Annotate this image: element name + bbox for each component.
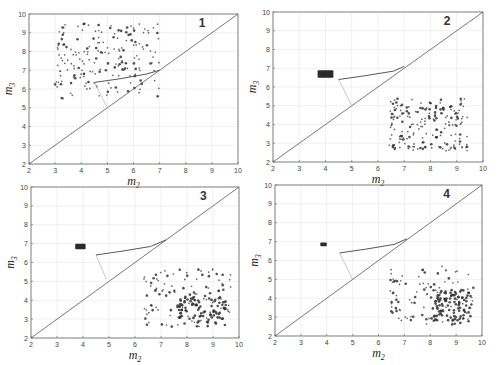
figure-svg: 23456789102345678910m2m31234567891023456… xyxy=(0,0,499,365)
panel-number: 1 xyxy=(199,16,206,30)
x-tick-label: 9 xyxy=(211,341,215,348)
x-tick-label: 3 xyxy=(53,167,57,174)
y-tick-label: 4 xyxy=(22,123,26,130)
x-tick-label: 3 xyxy=(55,341,59,348)
y-tick-label: 8 xyxy=(24,221,28,228)
point-cluster xyxy=(320,243,326,247)
x-axis-label: m2 xyxy=(129,348,142,364)
y-tick-label: 2 xyxy=(22,161,26,168)
x-tick-label: 8 xyxy=(184,167,188,174)
y-tick-label: 9 xyxy=(266,27,270,34)
panel-number: 4 xyxy=(443,187,450,201)
x-tick-label: 2 xyxy=(29,341,33,348)
x-tick-label: 8 xyxy=(428,339,432,346)
y-tick-label: 6 xyxy=(268,257,272,264)
x-axis-label: m2 xyxy=(127,174,140,190)
y-tick-label: 6 xyxy=(266,84,270,91)
x-tick-label: 5 xyxy=(105,167,109,174)
x-tick-label: 4 xyxy=(79,167,83,174)
panel-number: 2 xyxy=(444,14,451,28)
y-tick-label: 4 xyxy=(266,121,270,128)
x-tick-label: 2 xyxy=(27,167,31,174)
x-tick-label: 10 xyxy=(479,165,487,172)
point-cluster xyxy=(318,70,334,78)
x-axis-label: m2 xyxy=(372,172,385,188)
y-tick-label: 2 xyxy=(266,159,270,166)
x-axis-label: m2 xyxy=(372,346,385,362)
y-tick-label: 10 xyxy=(262,9,270,16)
y-axis-label: m3 xyxy=(1,83,17,96)
y-tick-label: 3 xyxy=(266,140,270,147)
y-tick-label: 8 xyxy=(268,219,272,226)
point-cluster xyxy=(75,244,85,250)
y-tick-label: 2 xyxy=(268,333,272,340)
x-tick-label: 8 xyxy=(185,341,189,348)
y-axis-label: m3 xyxy=(245,81,261,94)
x-tick-label: 6 xyxy=(132,167,136,174)
y-tick-label: 5 xyxy=(24,278,28,285)
x-tick-label: 7 xyxy=(402,339,406,346)
x-tick-label: 6 xyxy=(376,165,380,172)
y-tick-label: 5 xyxy=(22,104,26,111)
x-tick-label: 10 xyxy=(478,339,486,346)
dark-trajectory xyxy=(340,239,407,253)
x-tick-label: 4 xyxy=(324,165,328,172)
y-tick-label: 6 xyxy=(22,86,26,93)
x-tick-label: 9 xyxy=(454,339,458,346)
x-tick-label: 7 xyxy=(159,341,163,348)
x-tick-label: 6 xyxy=(133,341,137,348)
y-tick-label: 3 xyxy=(22,142,26,149)
x-tick-label: 2 xyxy=(271,165,275,172)
y-tick-label: 4 xyxy=(24,297,28,304)
x-tick-label: 3 xyxy=(299,339,303,346)
y-tick-label: 10 xyxy=(18,11,26,18)
scatter-points xyxy=(389,266,474,326)
y-tick-label: 9 xyxy=(268,200,272,207)
x-tick-label: 4 xyxy=(81,341,85,348)
y-tick-label: 6 xyxy=(24,259,28,266)
x-tick-label: 2 xyxy=(273,339,277,346)
y-tick-label: 9 xyxy=(24,202,28,209)
x-tick-label: 3 xyxy=(297,165,301,172)
light-trajectory xyxy=(339,80,352,106)
x-tick-label: 10 xyxy=(235,341,243,348)
x-tick-label: 5 xyxy=(351,339,355,346)
y-axis-label: m3 xyxy=(3,256,19,269)
scatter-points xyxy=(54,22,160,99)
x-tick-label: 7 xyxy=(402,165,406,172)
y-tick-label: 2 xyxy=(24,335,28,342)
dark-trajectory xyxy=(94,70,159,82)
x-tick-label: 8 xyxy=(429,165,433,172)
y-tick-label: 5 xyxy=(266,102,270,109)
x-tick-label: 9 xyxy=(455,165,459,172)
y-tick-label: 5 xyxy=(268,276,272,283)
chart-panel-3: 23456789102345678910m2m33 xyxy=(3,184,243,365)
light-trajectory xyxy=(340,253,353,279)
y-tick-label: 8 xyxy=(266,46,270,53)
chart-panel-2: 23456789102345678910m2m32 xyxy=(245,9,487,189)
x-tick-label: 5 xyxy=(350,165,354,172)
y-tick-label: 3 xyxy=(24,316,28,323)
y-tick-label: 7 xyxy=(24,240,28,247)
chart-panel-1: 23456789102345678910m2m31 xyxy=(1,11,242,191)
x-tick-label: 5 xyxy=(107,341,111,348)
y-tick-label: 7 xyxy=(268,238,272,245)
y-tick-label: 8 xyxy=(22,48,26,55)
y-tick-label: 9 xyxy=(22,29,26,36)
y-axis-label: m3 xyxy=(247,254,263,267)
y-tick-label: 10 xyxy=(264,182,272,189)
x-tick-label: 9 xyxy=(210,167,214,174)
x-tick-label: 7 xyxy=(158,167,162,174)
light-trajectory xyxy=(94,82,107,107)
panel-number: 3 xyxy=(200,189,207,203)
x-tick-label: 6 xyxy=(377,339,381,346)
y-tick-label: 7 xyxy=(22,67,26,74)
x-tick-label: 4 xyxy=(325,339,329,346)
y-tick-label: 4 xyxy=(268,295,272,302)
y-tick-label: 10 xyxy=(20,184,28,191)
y-tick-label: 3 xyxy=(268,314,272,321)
chart-panel-4: 23456789102345678910m2m34 xyxy=(247,182,486,363)
light-trajectory xyxy=(96,255,106,280)
x-tick-label: 10 xyxy=(234,167,242,174)
y-tick-label: 7 xyxy=(266,65,270,72)
